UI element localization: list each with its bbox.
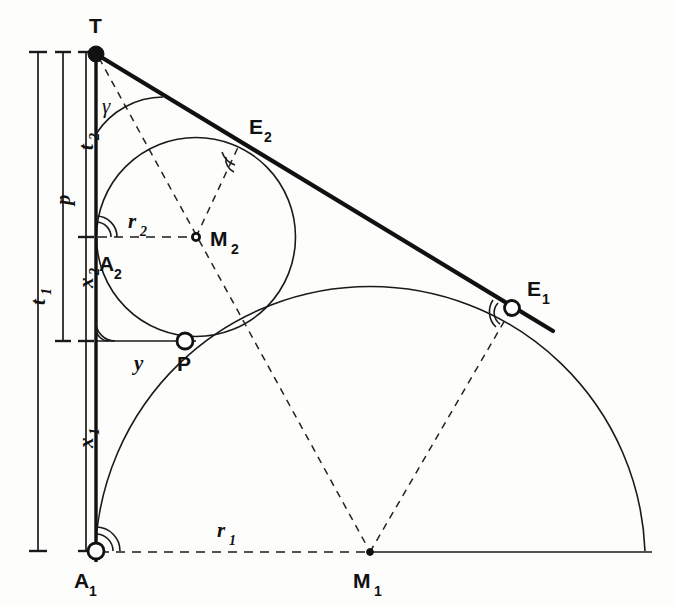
label-point-A1: A 1 [74, 569, 97, 599]
label-point-T: T [89, 14, 102, 37]
svg-text:1: 1 [542, 291, 550, 307]
point-marker-M2[interactable] [192, 233, 199, 240]
label-segment-t1: t 1 [26, 288, 54, 305]
point-marker-A1[interactable] [88, 543, 104, 559]
svg-text:E: E [249, 115, 263, 138]
big-arc-circle-1 [95, 286, 645, 551]
svg-text:1: 1 [89, 583, 97, 599]
svg-text:2: 2 [87, 133, 102, 141]
point-marker-E1[interactable] [505, 301, 520, 316]
svg-text:2: 2 [139, 224, 147, 239]
label-segment-t2: t 2 [74, 133, 102, 150]
angle-marks [96, 97, 500, 551]
diagram-canvas: T E 2 E 1 M 2 A 2 P [0, 0, 676, 606]
svg-text:E: E [527, 277, 541, 300]
svg-text:p: p [51, 195, 75, 208]
point-marker-T[interactable] [88, 46, 104, 62]
label-segment-x2: x 2 [74, 268, 102, 289]
svg-text:x: x [74, 438, 98, 450]
svg-text:2: 2 [264, 129, 272, 145]
svg-text:M: M [353, 569, 371, 592]
label-point-M2: M 2 [210, 227, 239, 257]
svg-text:1: 1 [229, 533, 236, 548]
label-segment-r2: r 2 [128, 209, 147, 239]
svg-text:r: r [128, 209, 137, 233]
point-marker-M1[interactable] [367, 549, 374, 556]
label-segment-r1: r 1 [217, 518, 236, 548]
svg-text:M: M [210, 227, 228, 250]
tangent-line-T-E1 [96, 54, 553, 331]
svg-text:x: x [74, 278, 98, 290]
angle-mark-right-at-E2 [222, 152, 235, 165]
svg-text:A: A [74, 569, 89, 592]
svg-text:2: 2 [87, 268, 102, 276]
point-labels: T E 2 E 1 M 2 A 2 P [74, 14, 550, 599]
svg-text:1: 1 [87, 428, 102, 435]
dashed-line-M2-E2 [196, 143, 240, 237]
angle-mark-right-at-E1-inner [494, 303, 500, 324]
label-point-P: P [177, 352, 191, 375]
label-segment-p: p [51, 195, 75, 208]
svg-text:1: 1 [374, 583, 382, 599]
label-segment-y: y [131, 351, 144, 375]
svg-text:2: 2 [231, 241, 239, 257]
geometry-figure: T E 2 E 1 M 2 A 2 P [0, 0, 676, 606]
label-point-E1: E 1 [527, 277, 550, 307]
label-segment-x1: x 1 [74, 428, 102, 449]
angle-mark-right-at-A2-inner [96, 222, 111, 237]
svg-text:1: 1 [39, 288, 54, 295]
dashed-line-M1-E1 [370, 308, 512, 552]
point-marker-P[interactable] [177, 333, 193, 349]
svg-text:r: r [217, 518, 226, 542]
dimension-bar-x2 [78, 237, 94, 341]
svg-text:2: 2 [114, 266, 122, 282]
label-angle-gamma: γ [102, 94, 111, 118]
dashed-line-T-M1 [99, 58, 368, 548]
angle-mark-right-at-P [96, 322, 115, 341]
label-point-A2: A 2 [99, 252, 122, 282]
label-point-E2: E 2 [249, 115, 272, 145]
label-point-M1: M 1 [353, 569, 382, 599]
point-markers [88, 46, 520, 559]
